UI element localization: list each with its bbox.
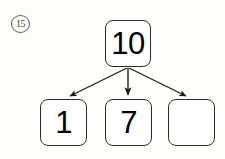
number-box-part-2[interactable]: 7 xyxy=(105,99,152,146)
arrow-to-part-3 xyxy=(129,68,186,96)
worksheet-canvas: 15 10 1 7 xyxy=(0,0,225,159)
question-number-marker: 15 xyxy=(11,15,30,33)
number-box-part-2-value: 7 xyxy=(120,107,137,138)
question-number-label: 15 xyxy=(16,19,25,29)
number-box-part-1-value: 1 xyxy=(55,107,72,138)
number-box-total[interactable]: 10 xyxy=(105,20,151,67)
number-box-part-1[interactable]: 1 xyxy=(40,99,87,146)
arrow-to-part-1 xyxy=(70,68,127,96)
number-box-part-3-blank[interactable] xyxy=(168,99,215,146)
number-box-total-value: 10 xyxy=(111,28,144,59)
